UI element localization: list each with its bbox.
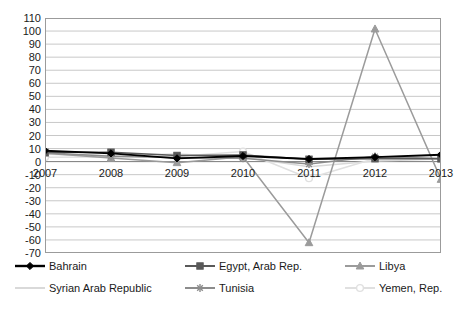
y-tick-label: 80 bbox=[0, 52, 41, 63]
y-tick-label: 110 bbox=[0, 13, 41, 24]
legend-swatch-icon bbox=[344, 259, 376, 273]
legend-label: Egypt, Arab Rep. bbox=[219, 261, 302, 272]
legend-item-syrian-arab-republic[interactable]: Syrian Arab Republic bbox=[14, 278, 152, 298]
legend-marker-icon bbox=[344, 281, 376, 295]
legend-item-bahrain[interactable]: Bahrain bbox=[14, 256, 87, 276]
y-tick-label: 0 bbox=[0, 156, 41, 167]
y-tick-label: 100 bbox=[0, 26, 41, 37]
y-tick-label: 50 bbox=[0, 91, 41, 102]
y-tick-label: -50 bbox=[0, 221, 41, 232]
y-tick-label: 60 bbox=[0, 78, 41, 89]
plot-area bbox=[45, 18, 441, 253]
legend-swatch-icon bbox=[184, 281, 216, 295]
data-point-marker bbox=[26, 262, 33, 269]
y-tick-label: -40 bbox=[0, 208, 41, 219]
y-axis: 1101009080706050403020100-10-20-30-40-50… bbox=[0, 18, 41, 253]
data-point-marker bbox=[357, 285, 364, 292]
legend-swatch-icon bbox=[14, 281, 46, 295]
y-tick-label: -20 bbox=[0, 182, 41, 193]
y-tick-label: 70 bbox=[0, 65, 41, 76]
data-point-marker bbox=[197, 263, 203, 269]
legend-swatch-icon bbox=[184, 259, 216, 273]
legend-swatch-icon bbox=[14, 259, 46, 273]
x-tick-label: 2009 bbox=[165, 168, 189, 179]
x-tick-label: 2007 bbox=[33, 168, 57, 179]
y-tick-label: 90 bbox=[0, 39, 41, 50]
legend-label: Libya bbox=[379, 261, 405, 272]
y-tick-label: 30 bbox=[0, 117, 41, 128]
line-chart: 1101009080706050403020100-10-20-30-40-50… bbox=[0, 0, 463, 310]
legend-marker-icon bbox=[184, 259, 216, 273]
legend-label: Bahrain bbox=[49, 261, 87, 272]
legend-label: Syrian Arab Republic bbox=[49, 283, 152, 294]
legend-label: Tunisia bbox=[219, 283, 254, 294]
y-tick-label: -30 bbox=[0, 195, 41, 206]
plot-canvas bbox=[45, 18, 441, 253]
legend-swatch-icon bbox=[344, 281, 376, 295]
y-tick-label: 40 bbox=[0, 104, 41, 115]
gridlines bbox=[45, 18, 441, 253]
legend-item-egypt-arab-rep[interactable]: Egypt, Arab Rep. bbox=[184, 256, 302, 276]
legend-marker-icon bbox=[14, 259, 46, 273]
data-point-marker bbox=[196, 284, 204, 292]
data-point-marker bbox=[371, 25, 379, 32]
legend-item-tunisia[interactable]: Tunisia bbox=[184, 278, 254, 298]
legend-row: BahrainEgypt, Arab Rep.Libya bbox=[14, 256, 454, 276]
legend-item-yemen-rep[interactable]: Yemen, Rep. bbox=[344, 278, 442, 298]
legend-marker-icon bbox=[184, 281, 216, 295]
x-tick-label: 2012 bbox=[363, 168, 387, 179]
legend-row: Syrian Arab RepublicTunisiaYemen, Rep. bbox=[14, 278, 454, 298]
x-axis: 2007200820092010201120122013 bbox=[45, 168, 441, 184]
x-tick-label: 2010 bbox=[231, 168, 255, 179]
chart-legend: BahrainEgypt, Arab Rep.Libya Syrian Arab… bbox=[14, 256, 454, 304]
legend-marker-icon bbox=[344, 259, 376, 273]
x-tick-label: 2008 bbox=[99, 168, 123, 179]
y-tick-label: -60 bbox=[0, 234, 41, 245]
legend-item-libya[interactable]: Libya bbox=[344, 256, 405, 276]
x-tick-label: 2013 bbox=[429, 168, 453, 179]
y-tick-label: 20 bbox=[0, 130, 41, 141]
x-tick-label: 2011 bbox=[297, 168, 321, 179]
y-tick-label: 10 bbox=[0, 143, 41, 154]
legend-marker-icon bbox=[14, 281, 46, 295]
legend-label: Yemen, Rep. bbox=[379, 283, 442, 294]
